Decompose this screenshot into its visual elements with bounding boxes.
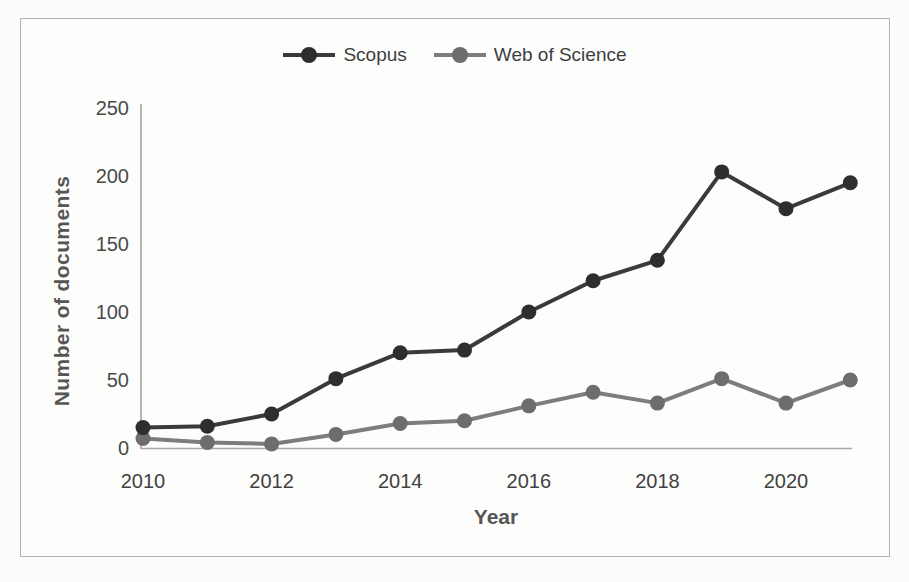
- x-axis-title: Year: [141, 505, 851, 529]
- legend-label-web-of-science: Web of Science: [494, 44, 627, 66]
- legend-label-scopus: Scopus: [343, 44, 406, 66]
- legend-item-web-of-science: Web of Science: [433, 44, 627, 66]
- web-of-science-line-marker-icon: [433, 45, 487, 65]
- chart-frame: [20, 18, 890, 557]
- legend-item-scopus: Scopus: [282, 44, 406, 66]
- y-axis-title: Number of documents: [50, 176, 74, 406]
- chart-legend: Scopus Web of Science: [0, 44, 909, 66]
- scopus-line-marker-icon: [282, 45, 336, 65]
